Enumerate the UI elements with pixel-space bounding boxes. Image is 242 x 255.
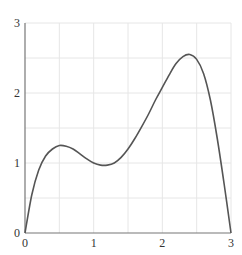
x-tick-label: 2 xyxy=(159,236,165,250)
y-tick-label: 1 xyxy=(14,156,20,170)
grid-lines xyxy=(25,23,231,233)
x-tick-labels: 0123 xyxy=(22,236,234,250)
x-tick-label: 1 xyxy=(91,236,97,250)
y-tick-labels: 0123 xyxy=(14,16,20,240)
y-tick-label: 3 xyxy=(14,16,20,30)
y-tick-label: 0 xyxy=(14,226,20,240)
x-tick-label: 0 xyxy=(22,236,28,250)
x-tick-label: 3 xyxy=(228,236,234,250)
line-chart: 0123 0123 xyxy=(0,0,242,255)
y-tick-label: 2 xyxy=(14,86,20,100)
